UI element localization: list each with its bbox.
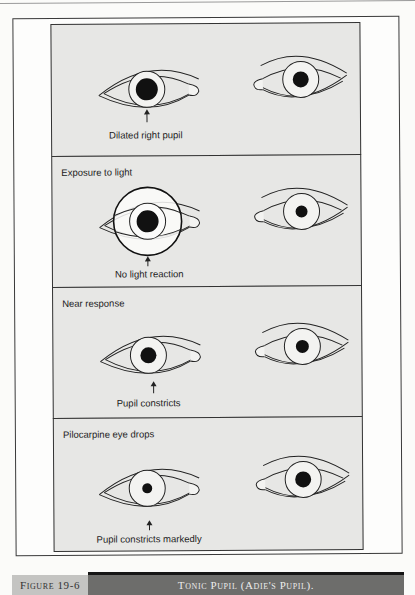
arrow-up-icon (151, 381, 157, 393)
arrow-up-icon (146, 520, 152, 530)
panel-exposure-to-light: Exposure to light (51, 154, 362, 288)
panel-caption: Pupil constricts markedly (97, 533, 202, 545)
figure-label: Figure 19-6 (12, 575, 88, 595)
arrow-up-icon (144, 109, 150, 122)
panel-pilocarpine: Pilocarpine eye drops (53, 416, 364, 552)
page-edge-line (0, 0, 415, 4)
eyes-illustration (52, 155, 363, 289)
right-eye-icon (99, 187, 199, 256)
panel-dilated-pupil: Dilated right pupil (50, 22, 361, 157)
right-eye-icon (99, 70, 199, 108)
right-eye-icon (99, 469, 199, 507)
left-eye-icon (254, 188, 347, 230)
figure-title: Tonic Pupil (Adie's Pupil). (88, 575, 404, 595)
eyes-illustration (51, 23, 362, 158)
panel-caption: No light reaction (115, 268, 184, 279)
left-eye-icon (256, 456, 349, 498)
arrow-up-icon (145, 256, 151, 266)
figure-caption-bar: Figure 19-6 Tonic Pupil (Adie's Pupil). (12, 575, 404, 595)
panel-near-response: Near response (52, 285, 363, 419)
left-eye-icon (255, 323, 348, 365)
eyes-illustration (54, 417, 365, 553)
left-eye-icon (254, 56, 347, 98)
eyes-illustration (53, 286, 364, 420)
figure-panels: Dilated right pupil Exposure to light (50, 22, 363, 549)
right-eye-icon (100, 336, 200, 374)
panel-caption: Dilated right pupil (109, 129, 182, 140)
panel-caption: Pupil constricts (117, 397, 181, 408)
